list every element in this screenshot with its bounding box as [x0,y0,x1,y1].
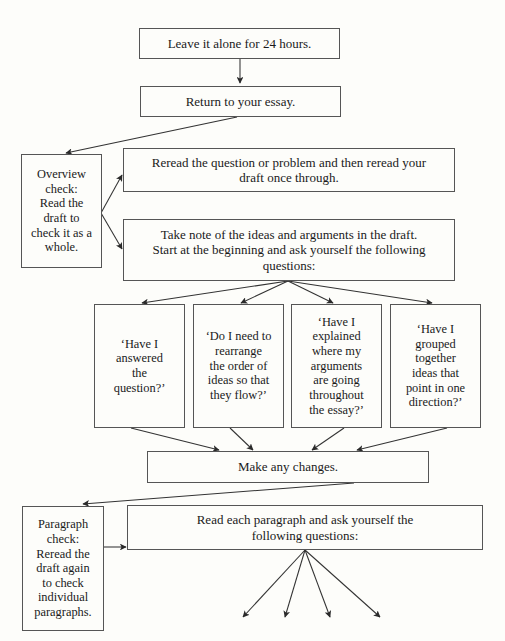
flowchart-page: Leave it alone for 24 hours. Return to y… [0,0,505,641]
edge-readpara-to-offpage-2 [285,550,305,617]
node-paragraph-check[interactable]: Paragraph check: Reread the draft again … [22,506,104,631]
node-leave-alone-label: Leave it alone for 24 hours. [140,36,339,51]
node-question-2[interactable]: ‘Do I need to rearrange the order of ide… [193,304,284,428]
edge-q2-to-changes [230,428,253,450]
edge-takenote-to-q2 [241,281,288,303]
node-read-each-paragraph-label: Read each paragraph and ask yourself the… [128,512,482,543]
edge-q4-to-changes [357,428,447,450]
node-reread-question[interactable]: Reread the question or problem and then … [123,148,455,192]
node-question-4-label: ‘Have I grouped together ideas that poin… [391,322,480,410]
node-question-2-label: ‘Do I need to rearrange the order of ide… [194,329,283,402]
node-take-note-label: Take note of the ideas and arguments in … [124,227,454,273]
node-overview-check-label: Overview check: Read the draft to check … [22,167,101,255]
node-make-changes[interactable]: Make any changes. [147,451,429,483]
node-make-changes-label: Make any changes. [148,459,428,474]
edge-readpara-to-offpage-3 [305,550,330,617]
node-paragraph-check-label: Paragraph check: Reread the draft again … [23,517,103,619]
node-question-3-label: ‘Have I explained where my arguments are… [292,315,381,417]
edge-takenote-to-q4 [288,281,432,303]
node-question-4[interactable]: ‘Have I grouped together ideas that poin… [390,304,481,428]
node-question-1-label: ‘Have I answered the question?’ [95,337,184,396]
edge-readpara-to-offpage-1 [243,550,305,617]
node-return-to-essay[interactable]: Return to your essay. [140,86,341,117]
node-question-3[interactable]: ‘Have I explained where my arguments are… [291,304,382,428]
node-return-to-essay-label: Return to your essay. [141,94,340,109]
edge-overview-to-takenote [101,213,122,249]
edge-overview-to-reread [101,175,122,213]
edge-q3-to-changes [312,428,344,450]
node-read-each-paragraph[interactable]: Read each paragraph and ask yourself the… [127,505,483,550]
node-reread-question-label: Reread the question or problem and then … [124,155,454,186]
node-overview-check[interactable]: Overview check: Read the draft to check … [21,154,102,268]
node-question-1[interactable]: ‘Have I answered the question?’ [94,304,185,428]
node-take-note[interactable]: Take note of the ideas and arguments in … [123,219,455,281]
edge-takenote-to-q1 [142,281,288,303]
node-leave-alone[interactable]: Leave it alone for 24 hours. [139,28,340,59]
edge-readpara-to-offpage-4 [305,550,380,617]
edge-takenote-to-q3 [288,281,333,303]
edge-changes-to-paragraph [83,483,354,504]
edge-q1-to-changes [131,428,219,450]
